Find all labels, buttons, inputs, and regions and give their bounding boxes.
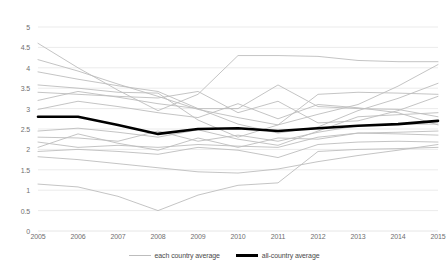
legend-swatch-icon xyxy=(236,254,258,257)
y-axis-tick-label: 3 xyxy=(26,105,30,112)
y-axis-tick-label: 0 xyxy=(26,228,30,235)
x-axis-tick-label: 2014 xyxy=(391,233,406,240)
y-axis-tick-label: 4 xyxy=(26,64,30,71)
y-axis-tick-label: 3.5 xyxy=(21,85,30,92)
legend-swatch-icon xyxy=(129,255,151,256)
series-line-each-country xyxy=(38,91,438,122)
legend-item-all-country: all-country average xyxy=(236,252,320,259)
y-axis-labels: 00.511.522.533.544.55 xyxy=(0,27,34,231)
legend-label-all-country: all-country average xyxy=(262,252,320,259)
y-axis-tick-label: 0.5 xyxy=(21,207,30,214)
series-line-each-country xyxy=(38,85,438,117)
y-axis-tick-label: 2 xyxy=(26,146,30,153)
x-axis-tick-label: 2008 xyxy=(151,233,166,240)
y-axis-tick-label: 2.5 xyxy=(21,126,30,133)
series-line-each-country xyxy=(38,43,438,110)
x-axis-tick-label: 2005 xyxy=(31,233,46,240)
x-axis-labels: 2005200620072008200920102011201220132014… xyxy=(38,233,438,247)
y-axis-tick-label: 5 xyxy=(26,24,30,31)
y-axis-tick-label: 1.5 xyxy=(21,166,30,173)
x-axis-tick-label: 2009 xyxy=(191,233,206,240)
x-axis-tick-label: 2012 xyxy=(311,233,326,240)
x-axis-tick-label: 2013 xyxy=(351,233,366,240)
x-axis-tick-label: 2006 xyxy=(71,233,86,240)
series-lines xyxy=(38,27,438,231)
x-axis-tick-label: 2010 xyxy=(231,233,246,240)
x-axis-tick-label: 2011 xyxy=(271,233,285,240)
x-axis-tick-label: 2007 xyxy=(111,233,126,240)
line-chart: 00.511.522.533.544.55 200520062007200820… xyxy=(0,0,448,272)
series-line-all-country xyxy=(38,117,438,134)
series-line-each-country xyxy=(38,147,438,210)
chart-legend: each country average all-country average xyxy=(0,252,448,259)
y-axis-tick-label: 1 xyxy=(26,187,30,194)
plot-area xyxy=(38,27,438,231)
legend-item-each-country: each country average xyxy=(129,252,220,259)
y-axis-tick-label: 4.5 xyxy=(21,44,30,51)
x-axis-tick-label: 2015 xyxy=(431,233,446,240)
legend-label-each-country: each country average xyxy=(155,252,220,259)
